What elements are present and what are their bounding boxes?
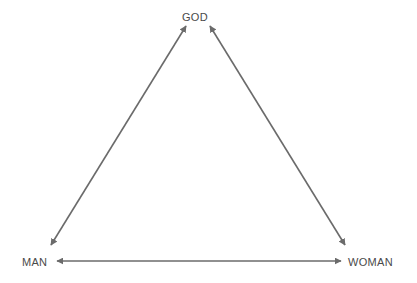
arrow-god-woman [210, 26, 345, 245]
node-woman: WOMAN [348, 256, 393, 268]
node-man: MAN [22, 256, 47, 268]
arrow-god-man [51, 26, 186, 245]
node-god: GOD [182, 11, 208, 23]
relationship-arrows [0, 0, 417, 283]
